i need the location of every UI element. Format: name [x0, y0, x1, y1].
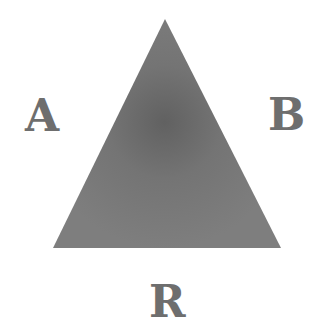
triangle-diagram — [0, 0, 317, 320]
triangle-shape — [53, 19, 281, 248]
label-a: A — [25, 94, 59, 138]
label-r: R — [149, 280, 186, 320]
label-b: B — [268, 93, 305, 137]
